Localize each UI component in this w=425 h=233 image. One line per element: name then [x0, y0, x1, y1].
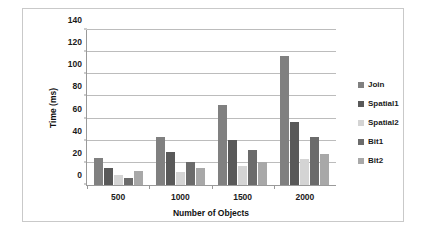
legend-swatch-icon	[358, 120, 364, 126]
bar	[124, 178, 133, 185]
legend-swatch-icon	[358, 139, 364, 145]
legend-item: Spatial2	[358, 113, 420, 132]
bar	[94, 158, 103, 185]
bar	[166, 152, 175, 185]
legend-swatch-icon	[358, 101, 364, 107]
x-tick-mark	[87, 185, 88, 189]
bar	[238, 166, 247, 185]
bar	[196, 168, 205, 185]
y-tick-label: 20	[73, 148, 82, 158]
x-tick-mark	[274, 185, 275, 189]
y-axis-label: Time (ms)	[48, 88, 58, 128]
bar	[186, 162, 195, 185]
bar-groups: 500100015002000	[87, 30, 336, 185]
bar	[310, 137, 319, 185]
legend-label: Bit2	[368, 156, 383, 165]
bar-group: 500	[87, 30, 149, 185]
legend-label: Join	[368, 80, 384, 89]
bar	[258, 162, 267, 185]
bar-group: 2000	[274, 30, 336, 185]
x-tick-mark	[212, 185, 213, 189]
legend-label: Spatial2	[368, 118, 399, 127]
bar-group: 1500	[212, 30, 274, 185]
bar	[156, 137, 165, 185]
chart-frame: Time (ms) 020406080100120140 50010001500…	[22, 8, 404, 222]
legend-swatch-icon	[358, 158, 364, 164]
bar	[218, 105, 227, 185]
legend-swatch-icon	[358, 82, 364, 88]
legend-item: Spatial1	[358, 94, 420, 113]
x-tick-label: 500	[111, 192, 125, 202]
y-tick-label: 120	[68, 37, 82, 47]
x-tick-mark	[149, 185, 150, 189]
bar	[290, 122, 299, 186]
legend-item: Bit1	[358, 132, 420, 151]
y-tick-label: 100	[68, 59, 82, 69]
bar	[248, 150, 257, 185]
chart-legend: JoinSpatial1Spatial2Bit1Bit2	[358, 75, 420, 170]
y-tick-label: 140	[68, 15, 82, 25]
bar	[280, 56, 289, 185]
y-tick-label: 40	[73, 126, 82, 136]
bar	[114, 175, 123, 185]
y-tick-label: 60	[73, 104, 82, 114]
legend-label: Spatial1	[368, 99, 399, 108]
plot-area: 020406080100120140 500100015002000	[86, 30, 336, 186]
x-tick-label: 2000	[295, 192, 314, 202]
x-axis-label: Number of Objects	[86, 208, 336, 218]
bar	[104, 168, 113, 185]
legend-label: Bit1	[368, 137, 383, 146]
bar	[134, 171, 143, 185]
bar	[320, 154, 329, 185]
x-tick-label: 1500	[233, 192, 252, 202]
x-tick-label: 1000	[171, 192, 190, 202]
chart-figure: Time (ms) 020406080100120140 50010001500…	[0, 0, 425, 233]
bar	[300, 159, 309, 185]
bar	[228, 140, 237, 185]
legend-item: Join	[358, 75, 420, 94]
y-tick-label: 80	[73, 81, 82, 91]
bar-group: 1000	[149, 30, 211, 185]
legend-item: Bit2	[358, 151, 420, 170]
y-tick-label: 0	[77, 170, 82, 180]
bar	[176, 172, 185, 185]
